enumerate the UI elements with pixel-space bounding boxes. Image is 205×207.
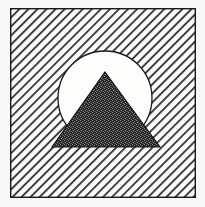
artboard: Mountain and Sun Emblem [0, 0, 205, 207]
emblem-illustration [0, 0, 205, 207]
